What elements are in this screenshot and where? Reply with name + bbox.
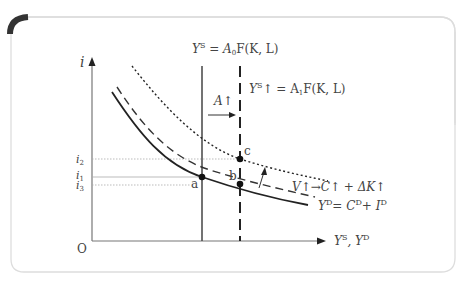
- point-c: [237, 156, 244, 163]
- x-axis-arrow-icon: [317, 238, 326, 245]
- corner-accent: [10, 17, 28, 34]
- point-b-label: b: [229, 169, 237, 183]
- point-b: [237, 181, 244, 188]
- v-arrowhead-icon: [261, 167, 267, 175]
- origin-label: O: [77, 242, 87, 256]
- a-shift-label: A↑: [213, 94, 233, 108]
- x-axis-label: YS, YD: [334, 233, 369, 248]
- yd-label: YD= CD+ ID: [318, 198, 387, 213]
- a-shift-arrowhead-icon: [229, 112, 236, 118]
- tick-i2: i2: [76, 153, 84, 167]
- point-a: [199, 174, 206, 181]
- diagram-frame: i O i2 i1 i3 YS = A0F(K, L) YS↑ = A1F(K,…: [0, 0, 465, 286]
- y-axis-label: i: [80, 54, 84, 70]
- ys0-label: YS = A0F(K, L): [192, 41, 279, 57]
- point-a-label: a: [191, 177, 198, 191]
- ys1-label: YS↑ = A1F(K, L): [249, 81, 346, 97]
- point-c-label: c: [244, 144, 251, 158]
- y-axis-arrow-icon: [89, 57, 96, 66]
- v-label: V↑→C↑ + ΔK↑: [292, 180, 385, 194]
